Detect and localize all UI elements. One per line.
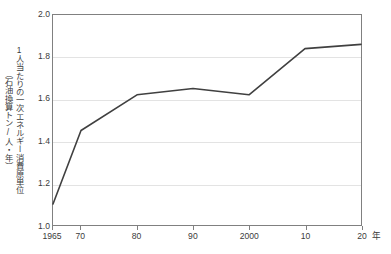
x-axis-tick-mark [137, 226, 138, 230]
x-axis-tick-label: 80 [132, 231, 142, 241]
y-axis-tick-label: 1.8 [4, 52, 50, 61]
x-axis-unit-label: 年 [372, 231, 381, 241]
x-axis-tick-label: 10 [301, 231, 311, 241]
y-axis-tick-label: 1.4 [4, 137, 50, 146]
data-series-line [53, 15, 361, 225]
x-axis-tick-label: 70 [75, 231, 85, 241]
x-axis-tick-label: 1965 [42, 231, 61, 241]
y-axis-tick-label: 1.0 [4, 222, 50, 231]
y-axis-tick-label: 1.2 [4, 179, 50, 188]
x-axis-tick-label: 2000 [240, 231, 259, 241]
x-axis-tick-mark [306, 226, 307, 230]
x-axis-tick-labels: 196570809020001020 [0, 231, 391, 245]
y-axis-tick-labels: 2.01.81.61.41.21.0 [0, 0, 50, 254]
plot-area [52, 14, 362, 226]
y-axis-tick-label: 1.6 [4, 94, 50, 103]
x-axis-tick-label: 20 [357, 231, 367, 241]
x-axis-tick-mark [193, 226, 194, 230]
x-axis-tick-mark [52, 226, 53, 230]
x-axis-tick-mark [362, 226, 363, 230]
x-axis-tick-mark [249, 226, 250, 230]
x-axis-tick-mark [80, 226, 81, 230]
y-axis-tick-label: 2.0 [4, 10, 50, 19]
x-axis-tick-label: 90 [188, 231, 198, 241]
chart-figure: （石油換算トン/人・年） 1人当たりの一次エネルギー消費原単位 2.01.81.… [0, 0, 391, 254]
